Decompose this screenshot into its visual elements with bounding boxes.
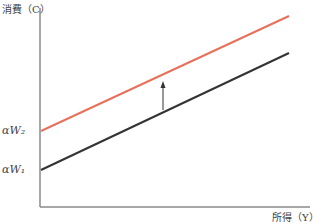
consumption-diagram bbox=[0, 0, 313, 222]
consumption-line-upper bbox=[41, 16, 289, 131]
intercept-label-lower: αW₁ bbox=[2, 163, 25, 176]
consumption-line-lower bbox=[41, 53, 289, 170]
y-axis-label: 消費（C） bbox=[2, 1, 50, 16]
x-axis-label: 所得（Y） bbox=[272, 209, 313, 222]
arrow-head-icon bbox=[161, 81, 166, 88]
intercept-label-upper: αW₂ bbox=[2, 124, 25, 137]
